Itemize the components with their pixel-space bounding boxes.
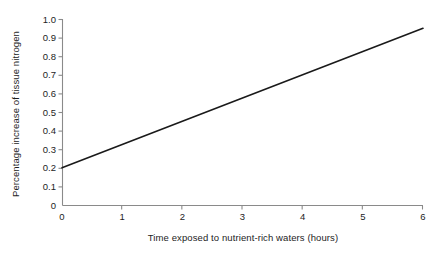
axis-ticks	[59, 20, 423, 210]
data-line	[62, 28, 423, 168]
data-series-group	[62, 28, 423, 168]
chart-figure: Percentage increase of tissue nitrogen T…	[0, 0, 444, 257]
plot-area	[0, 0, 444, 257]
axis-lines	[63, 19, 424, 206]
